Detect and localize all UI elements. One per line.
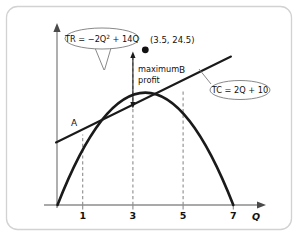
x-tick-label-7: 7 [230,210,237,221]
figure-border [7,7,292,230]
tc-formula-prefix: TC = 2Q [211,85,246,95]
tr-formula-suffix: + 14Q [110,34,139,44]
tr-formula-prefix: TR = −2Q [64,34,106,44]
tr-formula-label: TR = −2Q2 + 14Q [64,34,139,44]
x-axis-label: Q [252,211,260,222]
point-a-label: A [71,118,78,128]
vertex-point-marker [142,46,149,53]
figure-container: TR = −2Q2 + 14Q TC = 2Q + 10 (3.5, 24.5)… [0,0,298,236]
maximum-profit-label-line2: profit [138,75,161,85]
x-tick-label-3: 3 [130,210,137,221]
maximum-profit-label-line1: maximum [138,64,179,74]
tc-formula-label: TC = 2Q + 10 [211,85,268,95]
economics-revenue-cost-chart: TR = −2Q2 + 14Q TC = 2Q + 10 (3.5, 24.5)… [0,0,298,236]
point-b-label: B [179,65,185,75]
vertex-coordinate-label: (3.5, 24.5) [150,35,194,45]
x-tick-label-1: 1 [79,210,86,221]
x-tick-label-5: 5 [180,210,187,221]
tc-formula-suffix: + 10 [246,85,268,95]
